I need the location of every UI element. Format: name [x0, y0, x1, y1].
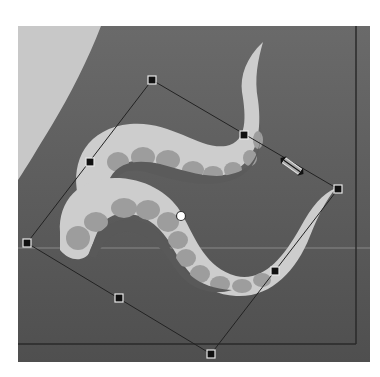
handle-left[interactable]: [23, 239, 31, 247]
handle-left-top-mid[interactable]: [86, 158, 94, 166]
handle-bottom[interactable]: [207, 350, 215, 358]
handle-right-bottom-mid[interactable]: [271, 267, 279, 275]
handle-right[interactable]: [334, 185, 342, 193]
handle-top[interactable]: [148, 76, 156, 84]
editor-canvas-area[interactable]: [0, 0, 380, 377]
handle-bottom-left-mid[interactable]: [115, 294, 123, 302]
transform-center-point[interactable]: [177, 212, 186, 221]
handle-top-right-mid[interactable]: [240, 131, 248, 139]
